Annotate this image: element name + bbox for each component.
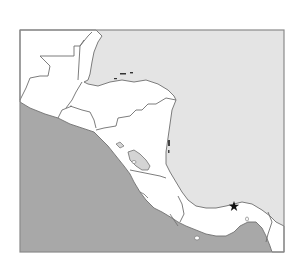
ometepe-island [132, 161, 136, 164]
central-america-map [0, 0, 297, 270]
coiba-island [195, 236, 200, 240]
pearl-islands [246, 217, 249, 221]
